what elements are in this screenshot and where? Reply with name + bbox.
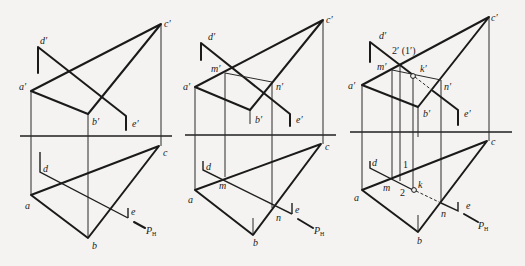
label-2: 2 <box>400 187 405 198</box>
label-a-prime: a′ <box>348 80 356 91</box>
plane-p-front-trace <box>38 47 126 130</box>
label-c: c <box>325 141 330 152</box>
label-c: c <box>491 136 496 147</box>
label-c-prime: c′ <box>491 12 498 23</box>
label-ph: PH <box>145 225 157 237</box>
ph-trace <box>134 222 145 228</box>
label-1: 1 <box>403 159 408 170</box>
label-e-prime: e′ <box>296 114 303 125</box>
triangle-top-view <box>362 141 487 232</box>
label-a-prime: a′ <box>19 81 27 92</box>
label-e-prime: e′ <box>464 108 471 119</box>
label-n-prime: n′ <box>276 81 284 92</box>
label-e: e <box>466 200 471 211</box>
label-k-prime: k′ <box>420 63 427 74</box>
panel-3: d′ 2′ (1′) m′ k′ a′ n′ b′ e′ c′ d 1 m 2 … <box>348 12 512 246</box>
label-2-1-prime: 2′ (1′) <box>392 45 416 57</box>
label-d: d <box>206 161 212 172</box>
label-d: d <box>43 163 49 174</box>
label-c-prime: c′ <box>164 18 171 29</box>
triangle-front-view <box>31 24 161 114</box>
ph-trace <box>464 214 478 222</box>
label-c-prime: c′ <box>326 14 333 25</box>
ph-trace <box>298 219 313 228</box>
label-n: n <box>276 212 281 223</box>
plane-p-front-trace-end <box>433 91 458 125</box>
panel-1: d′ a′ b′ c′ e′ d a b c e PH <box>19 18 172 251</box>
label-n: n <box>441 208 446 219</box>
label-b-prime: b′ <box>255 114 263 125</box>
label-b-prime: b′ <box>423 108 431 119</box>
label-d: d <box>372 157 378 168</box>
label-m: m <box>383 182 390 193</box>
plane-p-front-trace-hidden <box>415 77 433 91</box>
label-b: b <box>417 235 422 246</box>
label-a-prime: a′ <box>183 81 191 92</box>
label-m-prime: m′ <box>211 63 221 74</box>
label-a: a <box>188 194 193 205</box>
label-b: b <box>253 237 258 248</box>
label-e: e <box>295 204 300 215</box>
point-k <box>412 188 417 193</box>
label-d-prime: d′ <box>40 35 48 46</box>
label-e: e <box>131 206 136 217</box>
label-e-prime: e′ <box>132 118 139 129</box>
label-k: k <box>418 179 423 190</box>
label-b: b <box>92 240 97 251</box>
label-m-prime: m′ <box>377 61 387 72</box>
point-k-prime <box>411 74 416 79</box>
label-ph: PH <box>477 220 489 232</box>
label-c: c <box>163 147 168 158</box>
label-ph: PH <box>313 225 325 237</box>
panel-2: d′ m′ a′ n′ b′ e′ c′ d m a n e c b PH <box>183 14 336 248</box>
label-a: a <box>354 192 359 203</box>
descriptive-geometry-figure: d′ a′ b′ c′ e′ d a b c e PH d′ m′ a′ n′ … <box>0 0 525 266</box>
label-b-prime: b′ <box>92 116 100 127</box>
label-d-prime: d′ <box>208 31 216 42</box>
label-a: a <box>25 200 30 211</box>
label-d-prime: d′ <box>379 30 387 41</box>
plane-p-top-trace-hidden <box>416 191 441 203</box>
label-n-prime: n′ <box>444 81 452 92</box>
label-m: m <box>219 180 226 191</box>
projection-drawing: d′ a′ b′ c′ e′ d a b c e PH d′ m′ a′ n′ … <box>0 0 525 266</box>
